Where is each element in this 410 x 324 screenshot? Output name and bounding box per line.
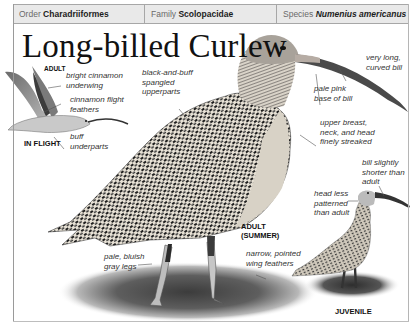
annotation-bill-base: pale pinkbase of bill — [314, 84, 352, 103]
annotation-wing-feathers: narrow, pointedwing feathers — [246, 249, 301, 268]
flight-adult-tag: ADULT — [44, 64, 66, 73]
annotation-juvenile-bill: bill slightlyshorter thanadult — [362, 158, 405, 187]
page-title: Long-billed Curlew — [22, 26, 287, 66]
annotation-breast: upper breast,neck, and headfinely streak… — [320, 118, 375, 147]
annotation-bill: very long,curved bill — [366, 53, 402, 72]
ground-shadow — [58, 262, 318, 322]
annotation-legs: pale, bluishgray legs — [104, 252, 144, 271]
field-guide-page: Order Charadriiformes Family Scolopacida… — [0, 0, 410, 324]
frame-left-border — [13, 4, 14, 322]
annotation-flight-feathers: cinnamon flightfeathers — [70, 95, 124, 114]
frame-right-border — [408, 4, 409, 322]
annotation-upperparts: black-and-buffspangledupperparts — [142, 68, 193, 97]
annotation-juvenile-head: head lesspatternedthan adult — [314, 189, 349, 218]
adult-summer-tag: ADULT(SUMMER) — [241, 222, 279, 240]
flight-in-flight-tag: IN FLIGHT — [24, 139, 61, 148]
juvenile-ground-shadow — [304, 271, 400, 299]
juvenile-tag: JUVENILE — [335, 307, 372, 316]
annotation-underwing: bright cinnamonunderwing — [66, 71, 123, 90]
frame-bottom-border — [13, 321, 409, 322]
annotation-underparts: buffunderparts — [70, 132, 108, 151]
